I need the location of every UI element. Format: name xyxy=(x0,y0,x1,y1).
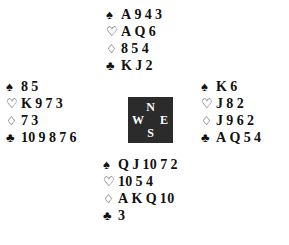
hand-south-spades-row: ♠ QJ1072 xyxy=(103,156,178,173)
compass-north-label: N xyxy=(128,101,173,113)
hand-north: ♠ A943 ♡ AQ6 ♢ 854 ♣ KJ2 xyxy=(106,6,162,74)
hand-east-diamonds-row: ♢ J962 xyxy=(201,112,261,129)
compass-south-label: S xyxy=(128,127,173,139)
hand-north-hearts: AQ6 xyxy=(121,23,156,40)
hand-north-hearts-row: ♡ AQ6 xyxy=(106,23,162,40)
hand-west-hearts: K973 xyxy=(21,95,63,112)
hand-east-spades: K6 xyxy=(216,78,238,95)
compass-box: N W E S xyxy=(128,97,173,143)
hand-south: ♠ QJ1072 ♡ 1054 ♢ AKQ10 ♣ 3 xyxy=(103,156,178,224)
hand-west-diamonds-row: ♢ 73 xyxy=(6,112,77,129)
hand-south-clubs: 3 xyxy=(118,207,125,224)
heart-icon: ♡ xyxy=(103,173,118,190)
hand-north-spades: A943 xyxy=(121,6,162,23)
hand-west-diamonds: 73 xyxy=(21,112,39,129)
hand-east-hearts-row: ♡ J82 xyxy=(201,95,261,112)
hand-west-clubs: 109876 xyxy=(21,129,77,146)
spade-icon: ♠ xyxy=(103,156,118,173)
hand-east-hearts: J82 xyxy=(216,95,244,112)
hand-east: ♠ K6 ♡ J82 ♢ J962 ♣ AQ54 xyxy=(201,78,261,146)
hand-east-diamonds: J962 xyxy=(216,112,254,129)
hand-north-diamonds-row: ♢ 854 xyxy=(106,40,162,57)
hand-west-clubs-row: ♣ 109876 xyxy=(6,129,77,146)
hand-south-diamonds: AKQ10 xyxy=(118,190,174,207)
hand-west-hearts-row: ♡ K973 xyxy=(6,95,77,112)
hand-south-hearts: 1054 xyxy=(118,173,153,190)
spade-icon: ♠ xyxy=(6,78,21,95)
heart-icon: ♡ xyxy=(6,95,21,112)
hand-east-clubs: AQ54 xyxy=(216,129,261,146)
bridge-deal-diagram: ♠ A943 ♡ AQ6 ♢ 854 ♣ KJ2 ♠ 85 ♡ K973 ♢ 7… xyxy=(0,0,289,245)
hand-south-clubs-row: ♣ 3 xyxy=(103,207,178,224)
club-icon: ♣ xyxy=(106,57,121,74)
heart-icon: ♡ xyxy=(106,23,121,40)
hand-east-clubs-row: ♣ AQ54 xyxy=(201,129,261,146)
club-icon: ♣ xyxy=(6,129,21,146)
compass-east-label: E xyxy=(160,114,168,126)
heart-icon: ♡ xyxy=(201,95,216,112)
spade-icon: ♠ xyxy=(201,78,216,95)
diamond-icon: ♢ xyxy=(6,113,21,130)
diamond-icon: ♢ xyxy=(103,191,118,208)
hand-east-spades-row: ♠ K6 xyxy=(201,78,261,95)
club-icon: ♣ xyxy=(201,129,216,146)
club-icon: ♣ xyxy=(103,207,118,224)
diamond-icon: ♢ xyxy=(201,113,216,130)
hand-north-clubs: KJ2 xyxy=(121,57,153,74)
hand-south-hearts-row: ♡ 1054 xyxy=(103,173,178,190)
hand-north-clubs-row: ♣ KJ2 xyxy=(106,57,162,74)
hand-north-diamonds: 854 xyxy=(121,40,149,57)
hand-west: ♠ 85 ♡ K973 ♢ 73 ♣ 109876 xyxy=(6,78,77,146)
hand-west-spades-row: ♠ 85 xyxy=(6,78,77,95)
hand-west-spades: 85 xyxy=(21,78,39,95)
hand-north-spades-row: ♠ A943 xyxy=(106,6,162,23)
hand-south-spades: QJ1072 xyxy=(118,156,178,173)
spade-icon: ♠ xyxy=(106,6,121,23)
compass-west-label: W xyxy=(132,114,144,126)
diamond-icon: ♢ xyxy=(106,41,121,58)
hand-south-diamonds-row: ♢ AKQ10 xyxy=(103,190,178,207)
